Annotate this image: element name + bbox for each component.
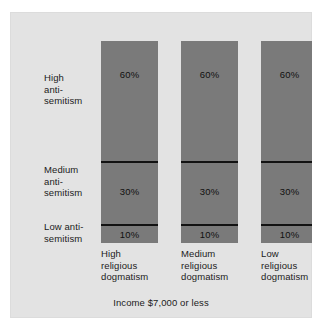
bar-segment-medium-antisemitism: 30% (261, 161, 312, 224)
bar-segment-value: 60% (280, 70, 300, 80)
stacked-bar: 60% 30% 10% (101, 41, 158, 243)
bar-segment-high-antisemitism: 60% (101, 41, 158, 161)
row-label-medium-antisemitism: Medium anti- semitism (44, 164, 102, 199)
stacked-bar: 60% 30% 10% (261, 41, 312, 243)
bar-segment-value: 60% (200, 70, 220, 80)
x-axis-label-medium-dogmatism: Medium religious dogmatism (181, 248, 251, 283)
bar-segment-value: 60% (120, 70, 140, 80)
bar-segment-high-antisemitism: 60% (181, 41, 238, 161)
bar-column-low-dogmatism: 60% 30% 10% (261, 41, 312, 243)
x-axis-label-low-dogmatism: Low religious dogmatism (261, 248, 312, 283)
bar-segment-value: 10% (280, 230, 300, 240)
bar-segment-high-antisemitism: 60% (261, 41, 312, 161)
bar-segment-value: 10% (120, 230, 140, 240)
row-label-low-antisemitism: Low anti- semitism (44, 221, 102, 244)
stacked-bar: 60% 30% 10% (181, 41, 238, 243)
bar-column-high-dogmatism: 60% 30% 10% (101, 41, 158, 243)
bar-segment-value: 30% (120, 187, 140, 197)
chart-figure-panel: High anti- semitism Medium anti- semitis… (10, 12, 312, 318)
bar-segment-value: 30% (200, 187, 220, 197)
bar-segment-medium-antisemitism: 30% (101, 161, 158, 224)
bar-segment-low-antisemitism: 10% (181, 224, 238, 243)
x-axis-label-high-dogmatism: High religious dogmatism (101, 248, 171, 283)
bar-segment-low-antisemitism: 10% (261, 224, 312, 243)
bar-column-medium-dogmatism: 60% 30% 10% (181, 41, 238, 243)
chart-caption: Income $7,000 or less (10, 297, 312, 308)
bar-segment-value: 10% (200, 230, 220, 240)
row-label-high-antisemitism: High anti- semitism (44, 72, 102, 107)
bar-segment-value: 30% (280, 187, 300, 197)
bar-segment-low-antisemitism: 10% (101, 224, 158, 243)
bar-segment-medium-antisemitism: 30% (181, 161, 238, 224)
